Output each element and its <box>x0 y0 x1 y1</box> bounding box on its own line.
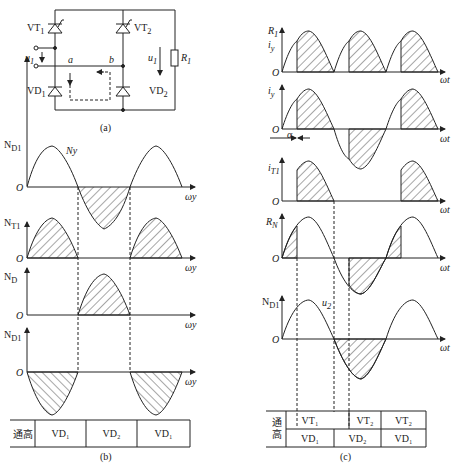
c-plot1-ylabel: R1 <box>268 26 278 40</box>
c-plot5-origin: O <box>272 335 279 345</box>
vd2-label: VD2 <box>149 86 168 100</box>
c-plot1-ylabel2: iy <box>268 40 274 54</box>
table-c-cell: VD₂ <box>334 429 381 447</box>
c-plot1-xlabel: ωt <box>440 75 450 85</box>
c-plot2-ylabel: iy <box>268 86 274 100</box>
b-plot1-ylabel: ND1 <box>4 140 21 154</box>
c-plot5-ylabel: ND1 <box>262 297 279 311</box>
thyristor-vt1-icon <box>48 20 64 33</box>
diode-vd2-icon <box>116 87 130 96</box>
b-plot1-origin: O <box>16 183 23 193</box>
table-c-cell: VT₂ <box>381 411 426 429</box>
c-plot3-ylabel: iT1 <box>268 163 280 177</box>
node-a-label: a <box>68 55 73 65</box>
input-voltage-label: u1 <box>25 53 34 67</box>
b-plot2-ylabel: NT1 <box>4 218 21 232</box>
table-b-cell: VD₁ <box>137 420 190 447</box>
b-plot4-origin: O <box>16 368 23 378</box>
caption-a: (a) <box>100 122 111 133</box>
c-plot4-origin: O <box>272 254 279 264</box>
c-plot5-curve-label: u2 <box>322 298 331 312</box>
vd1-label: VD1 <box>27 86 46 100</box>
c-plot4-ylabel: RN <box>266 217 278 231</box>
c-plot1-origin: O <box>272 68 279 78</box>
b-plot2-origin: O <box>16 254 23 264</box>
b-plot3-xlabel: ωy <box>185 320 197 330</box>
output-voltage-label: u1 <box>148 53 157 67</box>
table-c-cell: VD₁ <box>286 429 334 447</box>
caption-c: (c) <box>340 451 351 462</box>
panel-b-plots <box>10 57 195 447</box>
table-c-cell: VT₂ <box>349 411 381 429</box>
b-plot2-xlabel: ωy <box>185 263 197 273</box>
table-b-cell: VD₁ <box>35 420 86 447</box>
b-plot3-origin: O <box>16 311 23 321</box>
table-b-header: 通高 <box>10 420 35 447</box>
b-plot3-ylabel: ND <box>4 272 17 286</box>
b-plot4-ylabel: ND1 <box>4 330 21 344</box>
panel-c-plots <box>266 28 445 447</box>
diode-vd1-icon <box>48 87 62 96</box>
table-c-cell: VT₁ <box>286 411 334 429</box>
resistor-r1-icon <box>171 50 178 66</box>
c-plot4-xlabel: ωt <box>440 263 450 273</box>
vt2-label: VT2 <box>134 23 152 37</box>
table-c-cell: VD₁ <box>381 429 426 447</box>
b-plot4-xlabel: ωy <box>185 377 197 387</box>
r1-label: R1 <box>181 53 191 67</box>
vt1-label: VT1 <box>27 23 45 37</box>
thyristor-vt2-icon <box>116 20 132 33</box>
c-plot5-xlabel: ωt <box>440 343 450 353</box>
table-c-header: 通高 <box>266 411 286 447</box>
c-plot2-alpha: α <box>287 130 292 140</box>
node-b-label: b <box>109 55 114 65</box>
c-plot2-xlabel: ωt <box>440 134 450 144</box>
c-plot3-xlabel: ωt <box>440 205 450 215</box>
b-plot1-xlabel: ωy <box>185 192 197 202</box>
diagram-canvas <box>0 0 454 465</box>
c-plot3-origin: O <box>272 197 279 207</box>
b-plot1-curve-label: Ny <box>66 146 77 156</box>
table-b-cell: VD₂ <box>86 420 137 447</box>
caption-b: (b) <box>100 451 112 462</box>
c-plot2-origin: O <box>272 125 279 135</box>
